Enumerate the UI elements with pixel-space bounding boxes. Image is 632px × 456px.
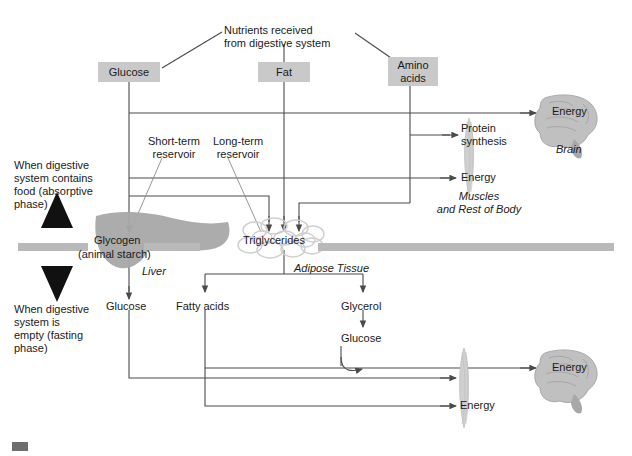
brain-icon-bottom [535,350,597,414]
amino-acid-flow [410,86,458,203]
source-label: Nutrients received from digestive system [224,24,330,50]
muscle-icon-bottom [460,348,469,428]
energy-brain-label-top: Energy [552,105,587,118]
glycogen-breakdown [129,258,456,378]
glucose-from-glycerol-label: Glucose [341,332,381,345]
nutrient-box-fat[interactable]: Fat [258,62,310,82]
liver-label: Liver [142,265,166,278]
nutrient-box-amino-acids[interactable]: Amino acids [388,57,438,86]
energy-muscles-label-top: Energy [461,171,496,184]
muscles-label-top: Muscles and Rest of Body [424,190,534,216]
glycerol-label: Glycerol [341,300,381,313]
phase-divider-segment-3 [318,243,614,251]
glucose-from-glycogen-label: Glucose [106,300,146,313]
brain-label-top: Brain [556,143,582,156]
nutrient-box-fat-label: Fat [276,66,292,79]
protein-synthesis-label: Protein synthesis [461,122,507,148]
diagram-canvas: Glucose Fat Amino acids Nutrients receiv… [0,0,632,456]
nutrient-box-glucose-label: Glucose [109,66,149,79]
energy-brain-label-bottom: Energy [552,361,587,374]
triglyceride-breakdown [205,250,536,406]
glycogen-sublabel: (animal starch) [78,248,151,261]
short-term-reservoir-label: Short-term reservoir [148,135,200,161]
energy-muscles-label-bottom: Energy [460,399,495,412]
long-term-reservoir-label: Long-term reservoir [213,135,263,161]
glycogen-label: Glycogen [94,234,140,247]
triglycerides-label: Triglycerides [243,234,305,247]
nutrient-box-amino-acids-label: Amino acids [397,59,428,85]
nutrient-box-glucose[interactable]: Glucose [98,62,160,82]
fatty-acids-label: Fatty acids [176,300,229,313]
fasting-phase-label: When digestive system is empty (fasting … [14,303,89,355]
phase-divider-segment-2 [144,243,200,251]
figure-corner-mark [12,442,28,451]
flow-lines-layer [0,0,632,456]
absorptive-phase-label: When digestive system contains food (abs… [14,159,93,211]
adipose-tissue-label: Adipose Tissue [294,262,369,275]
